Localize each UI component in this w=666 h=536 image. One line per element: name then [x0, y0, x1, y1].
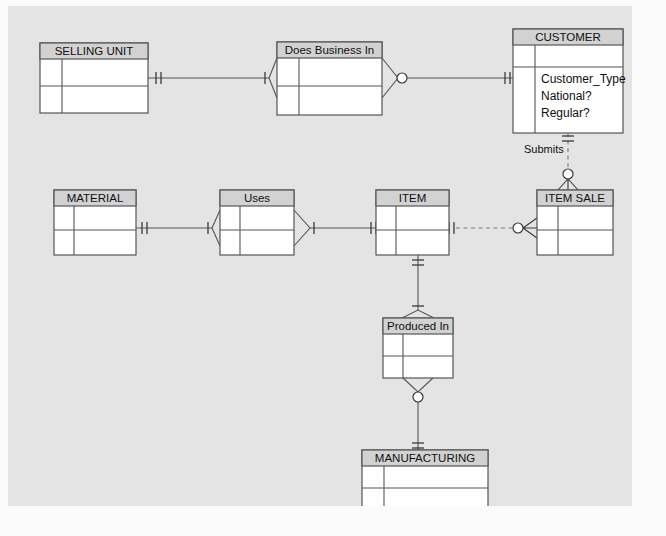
entity-item-sale[interactable]: ITEM SALE — [537, 190, 613, 255]
attribute-national: National? — [541, 89, 592, 103]
entity-selling-unit[interactable]: SELLING UNIT — [40, 43, 148, 113]
entity-name-manufacturing: MANUFACTURING — [375, 452, 475, 464]
connector-does-business-in-customer — [382, 58, 513, 98]
connector-item-item-sale — [449, 218, 537, 238]
diagram-canvas: SELLING UNIT Does Business In CUSTOMER C… — [8, 6, 632, 506]
connector-produced-in-manufacturing — [402, 377, 434, 450]
relationship-name-does-business-in: Does Business In — [285, 44, 375, 56]
attribute-customer-type: Customer_Type — [541, 72, 626, 86]
entity-item[interactable]: ITEM — [376, 190, 449, 255]
connector-uses-item — [294, 210, 378, 246]
entity-material[interactable]: MATERIAL — [54, 190, 136, 255]
entity-name-item: ITEM — [399, 192, 426, 204]
entity-name-customer: CUSTOMER — [535, 31, 601, 43]
connector-label-submits: Submits — [524, 143, 564, 155]
relationship-name-produced-in: Produced In — [387, 320, 449, 332]
entity-name-item-sale: ITEM SALE — [545, 192, 605, 204]
connector-item-produced-in — [402, 254, 434, 318]
diagram-stage: SELLING UNIT Does Business In CUSTOMER C… — [0, 0, 666, 536]
connector-customer-item-sale-submits — [557, 133, 579, 191]
attribute-regular: Regular? — [541, 106, 590, 120]
entity-name-selling-unit: SELLING UNIT — [55, 45, 134, 57]
relationship-uses[interactable]: Uses — [220, 190, 294, 255]
relationship-produced-in[interactable]: Produced In — [383, 318, 453, 378]
relationship-name-uses: Uses — [244, 192, 270, 204]
connector-selling-unit-does-business-in — [148, 58, 277, 98]
relationship-does-business-in[interactable]: Does Business In — [277, 42, 382, 115]
er-diagram-svg: SELLING UNIT Does Business In CUSTOMER C… — [8, 6, 632, 506]
entity-manufacturing[interactable]: MANUFACTURING — [362, 450, 488, 506]
entity-customer[interactable]: CUSTOMER Customer_Type National? Regular… — [513, 29, 626, 133]
entity-name-material: MATERIAL — [67, 192, 124, 204]
connector-material-uses — [136, 210, 220, 246]
